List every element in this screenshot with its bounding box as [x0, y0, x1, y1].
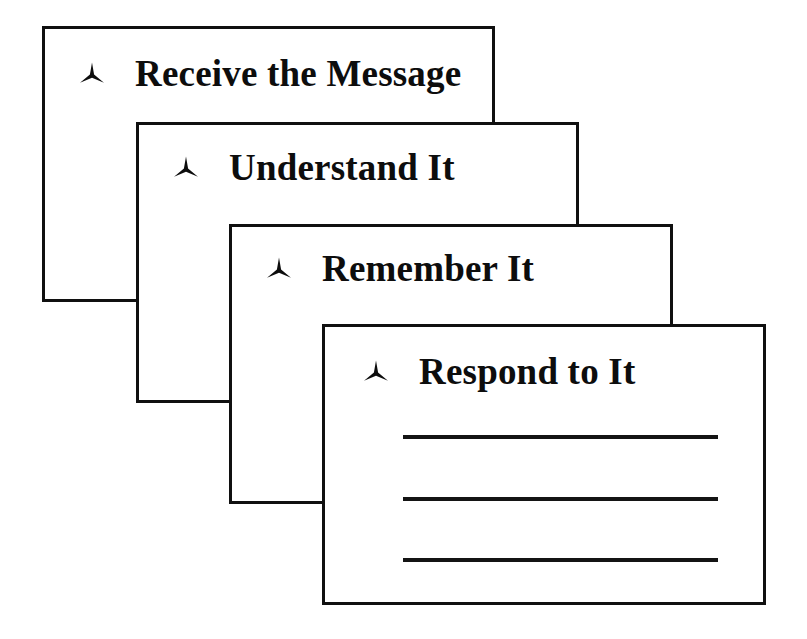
card-header: Remember It — [266, 250, 534, 287]
three-pointed-star-icon — [79, 61, 105, 87]
card-title: Understand It — [229, 149, 455, 186]
write-in-rule-line — [403, 558, 718, 562]
card-header: Respond to It — [363, 353, 635, 390]
card-header: Receive the Message — [79, 55, 461, 92]
three-pointed-star-icon — [266, 256, 292, 282]
three-pointed-star-icon — [173, 155, 199, 181]
card-respond-to-it[interactable]: Respond to It — [322, 324, 766, 605]
card-title: Respond to It — [419, 353, 635, 390]
write-in-rule-line — [403, 497, 718, 501]
card-title: Remember It — [322, 250, 534, 287]
diagram-canvas: Receive the Message Understand It Rememb… — [0, 0, 807, 639]
write-in-rule-line — [403, 435, 718, 439]
card-title: Receive the Message — [135, 55, 461, 92]
three-pointed-star-icon — [363, 359, 389, 385]
card-header: Understand It — [173, 149, 455, 186]
